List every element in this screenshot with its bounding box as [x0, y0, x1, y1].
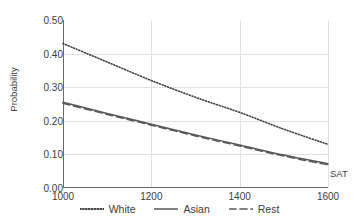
plot-area	[63, 20, 328, 188]
x-tick-label: 1000	[33, 191, 93, 202]
legend-item-asian[interactable]: Asian	[154, 203, 209, 215]
y-tick-label: 0.50	[23, 15, 63, 26]
y-tick-label: 0.20	[23, 115, 63, 126]
gridline-vertical	[328, 20, 329, 188]
legend-swatch-rest	[229, 205, 253, 213]
legend-item-white[interactable]: White	[80, 203, 136, 215]
legend-swatch-white	[80, 205, 104, 213]
chart-container: Probability SAT 0.000.100.200.300.400.50…	[0, 0, 359, 223]
legend-label: Rest	[258, 203, 280, 215]
y-axis-title: Probability	[8, 50, 19, 130]
chart-legend: WhiteAsianRest	[0, 203, 359, 215]
series-line-asian	[63, 102, 328, 163]
series-lines	[63, 20, 328, 188]
legend-label: Asian	[183, 203, 209, 215]
y-tick-label: 0.30	[23, 82, 63, 93]
series-line-white	[63, 44, 328, 145]
x-tick-label: 1400	[210, 191, 270, 202]
y-tick-label: 0.10	[23, 149, 63, 160]
x-tick-label: 1200	[121, 191, 181, 202]
x-tick-label: 1600	[298, 191, 358, 202]
legend-swatch-asian	[154, 205, 178, 213]
legend-item-rest[interactable]: Rest	[229, 203, 280, 215]
legend-label: White	[109, 203, 136, 215]
x-axis-title: SAT	[330, 168, 348, 179]
y-tick-label: 0.40	[23, 48, 63, 59]
